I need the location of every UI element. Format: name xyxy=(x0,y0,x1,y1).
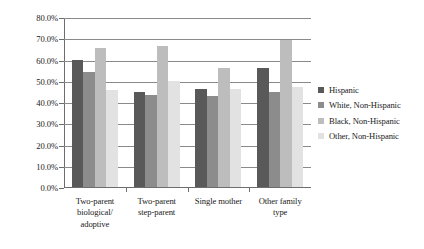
x-axis-category-labels: Two-parentbiological/adoptiveTwo-parents… xyxy=(64,196,311,248)
x-axis-tick xyxy=(126,188,127,192)
plot-area xyxy=(64,18,311,188)
bar xyxy=(134,92,146,187)
bar-group xyxy=(64,18,126,187)
legend-label: Other, Non-Hispanic xyxy=(329,131,399,141)
x-axis-label-line: Other family xyxy=(243,196,317,207)
x-axis-label-line: step-parent xyxy=(120,207,194,218)
legend-item: Hispanic xyxy=(318,82,424,98)
chart-screenshot: 0.0%10.0%20.0%30.0%40.0%50.0%60.0%70.0%8… xyxy=(0,0,424,249)
bar-group xyxy=(249,18,311,187)
bar xyxy=(195,89,207,187)
legend-swatch-icon xyxy=(318,118,324,124)
legend-item: Other, Non-Hispanic xyxy=(318,129,424,145)
legend-label: Hispanic xyxy=(329,85,359,95)
bar xyxy=(72,60,84,187)
x-axis-label-line: type xyxy=(243,207,317,218)
bar xyxy=(83,72,95,187)
x-axis-tick xyxy=(188,188,189,192)
bar xyxy=(168,81,180,187)
legend-item: Black, Non-Hispanic xyxy=(318,113,424,129)
bar xyxy=(157,46,169,187)
bar xyxy=(280,40,292,187)
legend-swatch-icon xyxy=(318,102,324,108)
legend-item: White, Non-Hispanic xyxy=(318,98,424,114)
bar xyxy=(230,89,242,187)
bar xyxy=(207,96,219,187)
legend-swatch-icon xyxy=(318,87,324,93)
y-axis-tick-marks xyxy=(0,18,66,188)
legend-swatch-icon xyxy=(318,133,324,139)
x-axis-category-label: Other familytype xyxy=(243,196,317,219)
chart-legend: HispanicWhite, Non-HispanicBlack, Non-Hi… xyxy=(318,82,424,144)
legend-label: White, Non-Hispanic xyxy=(329,100,401,110)
bar xyxy=(95,48,107,187)
bar xyxy=(106,90,118,187)
legend-label: Black, Non-Hispanic xyxy=(329,116,400,126)
bar xyxy=(269,92,281,187)
bar xyxy=(145,95,157,187)
bar-group xyxy=(126,18,188,187)
x-axis-label-line: adoptive xyxy=(58,219,132,230)
bar-group xyxy=(188,18,250,187)
bar xyxy=(292,87,304,187)
x-axis-tick xyxy=(249,188,250,192)
bar xyxy=(257,68,269,187)
bar xyxy=(218,68,230,187)
x-axis-tick-marks xyxy=(64,188,311,193)
